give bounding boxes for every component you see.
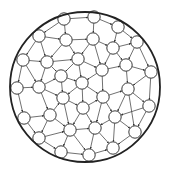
network-node [77,102,89,114]
edge-arrow [63,136,67,147]
network-node [60,34,72,46]
edge-arrow [68,87,77,94]
edge-arrow [138,111,146,126]
edge-arrow [102,76,103,91]
edge-arrow [26,41,35,55]
edge-arrow [87,73,97,79]
network-node [41,56,53,68]
edge-arrow [29,61,41,62]
network-node [57,92,69,104]
network-node [120,59,132,71]
edge-arrow [133,93,144,102]
edge-arrow [45,90,58,96]
edge-arrow [123,31,132,38]
edge-arrow [54,103,59,110]
edge-arrow [100,19,113,24]
edge-arrow [113,123,114,142]
edge-arrow [62,82,63,92]
edge-arrow [99,133,109,144]
edge-arrow [100,120,109,125]
edge-arrow [84,62,97,68]
network-node [129,126,141,138]
edge-arrow [72,39,87,40]
network-node [107,142,119,154]
edge-arrow [86,113,92,122]
network-node [83,149,95,161]
edge-arrow [79,65,81,77]
edge-arrow [97,103,102,122]
edge-arrow [105,54,110,65]
network-diagram [0,0,171,174]
edge-arrow [65,25,66,34]
edge-arrow [53,60,72,62]
network-node [122,83,134,95]
edge-arrow [41,42,45,56]
edge-arrow [95,45,101,64]
edge-arrow [42,121,48,133]
edge-arrow [30,116,44,118]
edge-arrow [44,141,56,148]
edge-arrow [65,63,73,71]
network-node [11,82,23,94]
edge-arrow [127,71,128,83]
network-node [96,64,108,76]
edge-arrow [88,100,97,105]
network-node [97,91,109,103]
edge-arrow [73,113,80,124]
network-node [107,42,119,54]
edge-arrow [74,135,86,150]
edge-arrow [133,76,146,86]
network-node [145,66,157,78]
network-node [55,70,67,82]
edge-arrow [119,44,131,47]
edge-arrow [129,48,135,60]
edge-arrow [82,89,83,102]
edge-arrow [18,66,21,82]
network-node [72,53,84,65]
edge-arrow [64,104,68,124]
edge-arrow [69,101,78,105]
edge-arrow [70,17,88,18]
network-node [44,109,56,121]
edge-arrow [87,86,98,93]
edge-arrow [99,42,108,46]
edge-arrow [90,134,93,149]
edge-arrow [118,95,126,112]
edge-arrow [45,37,60,39]
edge-arrow [129,95,134,126]
network-node [64,124,76,136]
edge-arrow [114,33,116,42]
edge-arrow [108,66,120,68]
network-node [76,77,88,89]
edge-arrow [95,150,107,154]
edge-arrow [51,66,56,71]
edge-arrow [120,121,130,129]
edge-arrow [41,68,45,81]
edge-arrow [76,128,89,129]
edge-arrow [117,53,122,60]
edge-arrow [106,102,112,111]
network-node [33,81,45,93]
network-node [109,111,121,123]
edge-arrow [26,65,36,81]
network-node [17,54,29,66]
edge-arrow [45,132,64,137]
diagram-canvas [0,0,171,174]
edge-arrow [118,136,130,145]
edge-arrow [67,153,83,155]
edge-arrow [45,79,56,84]
edge-arrow [28,123,36,133]
edge-arrow [51,45,62,58]
edge-arrow [132,67,145,71]
edge-arrow [18,94,22,112]
edge-arrow [82,44,90,54]
edge-arrow [67,78,76,81]
edge-arrow [109,91,122,95]
edge-arrow [69,45,74,54]
network-node [89,122,101,134]
edge-arrow [149,78,150,100]
network-node [87,33,99,45]
edge-arrow [55,119,65,127]
edge-arrow [140,48,149,67]
network-node [143,100,155,112]
